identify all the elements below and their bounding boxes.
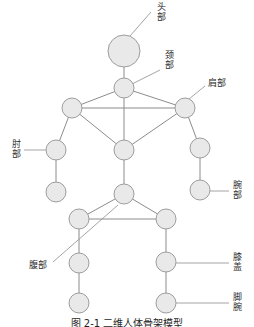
right-knee-joint	[156, 252, 176, 272]
right-wrist-joint	[190, 180, 210, 200]
right-shoulder-joint	[175, 98, 195, 118]
left-ankle-joint	[69, 293, 89, 313]
annotation-shoulder: 肩部	[208, 78, 226, 88]
skeleton-joint-layer	[46, 35, 210, 313]
annotation-head: 头 部	[156, 2, 166, 22]
edge-right-shoulder-chest	[124, 108, 185, 150]
annotation-neck-leader-line	[132, 70, 160, 84]
right-ankle-joint	[156, 293, 176, 313]
annotation-shoulder-leader-line	[189, 86, 205, 99]
right-elbow-joint	[190, 138, 210, 158]
left-elbow-joint	[46, 140, 66, 160]
right-hip-joint	[156, 209, 176, 229]
annotation-abdomen: 腹部	[29, 260, 47, 270]
annotation-knee: 膝 盖	[232, 252, 242, 272]
annotation-ankle: 脚 腕	[232, 292, 242, 312]
figure-caption: 图 2-1 二维人体骨架模型	[0, 315, 254, 327]
chest-joint	[114, 140, 134, 160]
head-joint	[108, 35, 140, 67]
left-hip-joint	[69, 209, 89, 229]
annotation-head-leader-line	[130, 12, 151, 36]
neck-joint	[114, 78, 134, 98]
annotation-wrist: 腕 部	[232, 180, 242, 200]
annotation-elbow: 肘 部	[11, 139, 21, 159]
pelvis-joint	[114, 184, 134, 204]
annotation-neck: 颈 部	[164, 50, 174, 70]
left-wrist-joint	[46, 182, 66, 202]
left-shoulder-joint	[62, 98, 82, 118]
left-knee-joint	[69, 253, 89, 273]
